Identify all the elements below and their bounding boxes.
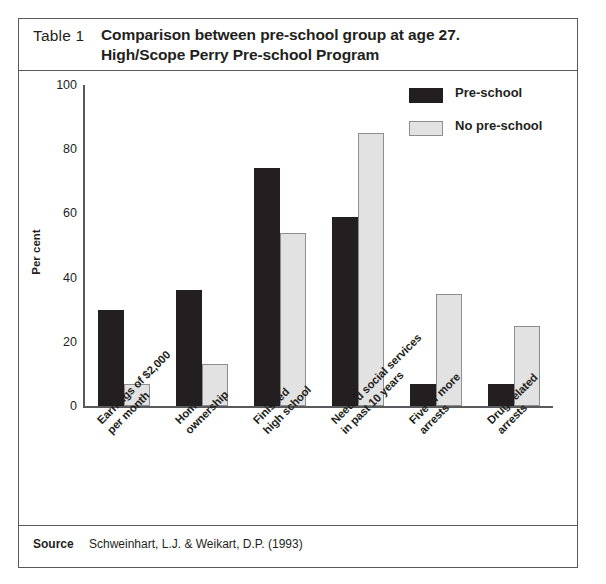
title-line-2: High/Scope Perry Pre-school Program xyxy=(101,45,569,65)
chart-plot-area: Per cent 020406080100 Earnings of $2,000… xyxy=(19,71,577,526)
page-title: Comparison between pre-school group at a… xyxy=(101,25,569,66)
bar-preschool xyxy=(332,217,358,406)
card-footer: Source Schweinhart, L.J. & Weikart, D.P.… xyxy=(19,525,577,567)
chart-legend: Pre-school No pre-school xyxy=(409,85,569,151)
bar-preschool xyxy=(176,290,202,406)
bar-preschool xyxy=(254,168,280,406)
y-tick-label: 20 xyxy=(19,335,77,349)
source-text: Schweinhart, L.J. & Weikart, D.P. (1993) xyxy=(89,537,303,551)
bar-group xyxy=(332,85,384,406)
y-tick-label: 100 xyxy=(19,78,77,92)
bar-group xyxy=(176,85,228,406)
legend-swatch-no-preschool xyxy=(409,121,443,136)
y-axis-title: Per cent xyxy=(30,229,42,274)
legend-label-no-preschool: No pre-school xyxy=(455,118,542,133)
y-tick-label: 80 xyxy=(19,142,77,156)
legend-item-preschool: Pre-school xyxy=(409,85,569,118)
x-axis-line xyxy=(83,406,553,408)
card-header: Table 1 Comparison between pre-school gr… xyxy=(19,19,577,71)
bar-group xyxy=(254,85,306,406)
source-label: Source xyxy=(33,537,74,551)
table-card: Table 1 Comparison between pre-school gr… xyxy=(18,18,578,568)
y-tick-label: 0 xyxy=(19,399,77,413)
legend-item-no-preschool: No pre-school xyxy=(409,118,569,151)
y-tick-label: 40 xyxy=(19,271,77,285)
bar-group xyxy=(98,85,150,406)
title-line-1: Comparison between pre-school group at a… xyxy=(101,25,569,45)
legend-swatch-preschool xyxy=(409,88,443,103)
table-number: Table 1 xyxy=(33,27,84,45)
y-tick-label: 60 xyxy=(19,206,77,220)
x-axis-category-labels: Earnings of $2,000per monthHomeownership… xyxy=(85,411,555,523)
legend-label-preschool: Pre-school xyxy=(455,85,522,100)
